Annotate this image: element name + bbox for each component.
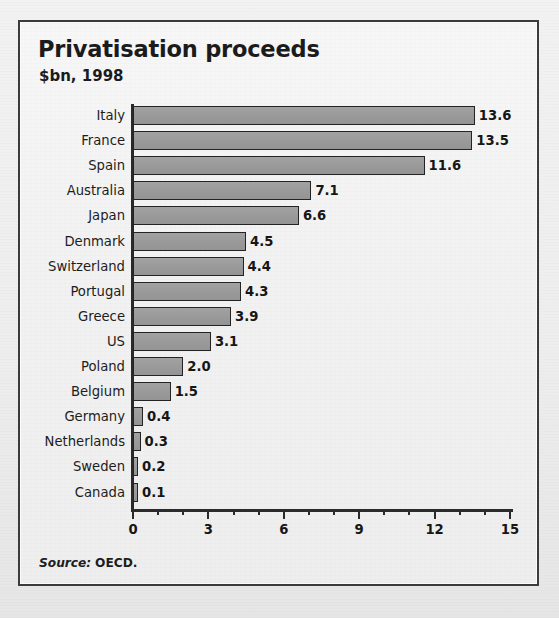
category-label: US (107, 332, 125, 351)
x-tick-label: 12 (425, 522, 443, 537)
x-tick-minor (484, 510, 486, 515)
bar-value-label: 1.5 (171, 382, 198, 401)
plot-area: Italy13.6France13.5Spain11.6Australia7.1… (133, 106, 510, 509)
source-label: Source: (39, 556, 91, 570)
chart-panel: Privatisation proceeds $bn, 1998 Italy13… (18, 20, 539, 586)
chart-subtitle: $bn, 1998 (39, 67, 124, 85)
bar (133, 131, 472, 150)
bar-value-label: 0.3 (141, 432, 168, 451)
category-label: France (81, 131, 125, 150)
x-tick-minor (459, 510, 461, 515)
category-label: Greece (78, 307, 125, 326)
category-label: Italy (96, 106, 125, 125)
x-tick-minor (233, 510, 235, 515)
x-tick-minor (258, 510, 260, 515)
page-title: Privatisation proceeds (38, 36, 320, 62)
bar-value-label: 0.2 (138, 457, 165, 476)
bar (133, 106, 475, 125)
source-value: OECD. (95, 556, 137, 570)
x-tick-label: 6 (279, 522, 288, 537)
category-label: Germany (64, 407, 125, 426)
x-tick-label: 3 (204, 522, 213, 537)
x-tick-major (509, 510, 511, 519)
category-label: Switzerland (48, 257, 125, 276)
category-label: Poland (81, 357, 125, 376)
bar (133, 282, 241, 301)
bar-value-label: 0.4 (143, 407, 170, 426)
bar (133, 382, 171, 401)
category-label: Spain (88, 156, 125, 175)
category-label: Belgium (71, 382, 125, 401)
bar (133, 357, 183, 376)
x-tick-minor (157, 510, 159, 515)
x-tick-major (358, 510, 360, 519)
bar (133, 432, 141, 451)
x-tick-minor (182, 510, 184, 515)
x-tick-label: 15 (501, 522, 519, 537)
bar-value-label: 13.6 (475, 106, 512, 125)
x-tick-major (132, 510, 134, 519)
x-tick-major (207, 510, 209, 519)
bar-value-label: 4.3 (241, 282, 268, 301)
x-tick-major (283, 510, 285, 519)
bar-value-label: 7.1 (311, 181, 338, 200)
bar-value-label: 0.1 (138, 483, 165, 502)
bar (133, 307, 231, 326)
x-tick-label: 0 (128, 522, 137, 537)
category-label: Denmark (64, 232, 125, 251)
bar-value-label: 3.1 (211, 332, 238, 351)
category-label: Netherlands (45, 432, 125, 451)
bar (133, 407, 143, 426)
bar (133, 181, 311, 200)
bar (133, 332, 211, 351)
bar (133, 156, 425, 175)
x-tick-minor (408, 510, 410, 515)
bar-value-label: 3.9 (231, 307, 258, 326)
bar (133, 257, 244, 276)
x-tick-minor (333, 510, 335, 515)
source-note: Source: OECD. (39, 556, 137, 570)
category-label: Portugal (70, 282, 125, 301)
bar-value-label: 13.5 (472, 131, 509, 150)
bar-value-label: 6.6 (299, 206, 326, 225)
category-label: Sweden (73, 457, 125, 476)
x-tick-minor (308, 510, 310, 515)
bar (133, 206, 299, 225)
x-axis-line (131, 509, 513, 512)
bar (133, 232, 246, 251)
x-tick-minor (383, 510, 385, 515)
category-label: Australia (67, 181, 125, 200)
bar-value-label: 11.6 (425, 156, 462, 175)
x-tick-major (434, 510, 436, 519)
bar-value-label: 4.5 (246, 232, 273, 251)
category-label: Canada (75, 483, 125, 502)
x-tick-label: 9 (355, 522, 364, 537)
category-label: Japan (88, 206, 125, 225)
bar-value-label: 4.4 (244, 257, 271, 276)
bar-value-label: 2.0 (183, 357, 210, 376)
